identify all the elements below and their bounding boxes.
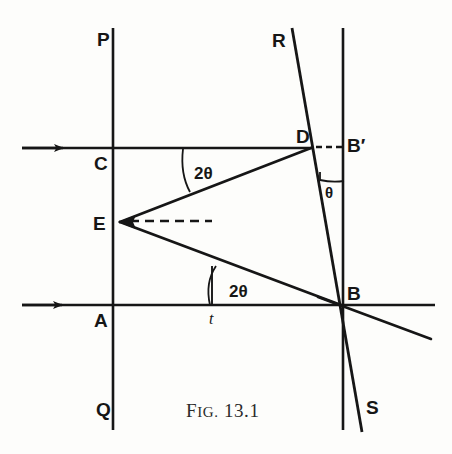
optics-ray-diagram: P Q R S C A D B B′ E 2θ 2θ θ t [0, 0, 452, 454]
figure-container: P Q R S C A D B B′ E 2θ 2θ θ t FIG. 13.1 [0, 0, 452, 454]
label-angle-2theta-lower: 2θ [229, 282, 248, 301]
caption-prefix: F [186, 400, 197, 421]
ray-E-to-D [120, 148, 311, 222]
caption-smallcaps: IG. [197, 404, 218, 420]
line-RS [292, 28, 362, 432]
label-C: C [94, 153, 108, 174]
label-R: R [272, 30, 286, 51]
label-D: D [296, 126, 310, 147]
arc-angle-theta [320, 180, 344, 182]
label-E: E [93, 213, 106, 234]
label-B: B [347, 283, 361, 304]
caption-number: 13.1 [224, 400, 260, 421]
label-P: P [97, 29, 110, 50]
label-angle-theta: θ [325, 184, 333, 201]
label-B-prime: B′ [347, 135, 366, 156]
label-A: A [94, 310, 108, 331]
ray-B-outgoing [318, 297, 431, 339]
label-angle-2theta-upper: 2θ [194, 164, 213, 183]
label-thickness-t: t [209, 310, 214, 327]
arc-angle-2theta-upper [182, 149, 190, 192]
label-Q: Q [96, 399, 111, 420]
figure-caption: FIG. 13.1 [186, 400, 260, 422]
label-S: S [366, 397, 379, 418]
